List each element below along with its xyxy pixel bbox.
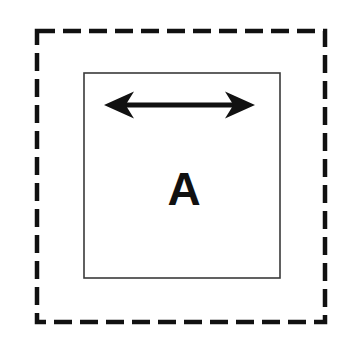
- diagram-canvas: A: [0, 0, 352, 346]
- region-label-a: A: [167, 163, 200, 215]
- diagram-figure: A: [0, 0, 352, 346]
